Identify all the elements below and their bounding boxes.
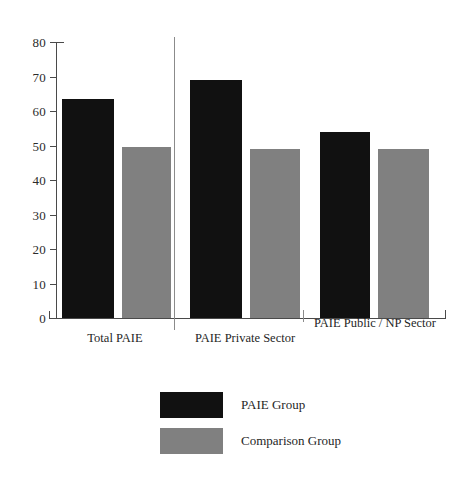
legend-item: PAIE Group [160, 392, 460, 428]
legend-label: Comparison Group [241, 433, 341, 449]
y-tick-label: 80 [18, 36, 46, 49]
bars-plot-area [57, 42, 445, 318]
y-tick-mark [50, 111, 57, 112]
legend-swatch [160, 428, 223, 454]
legend-label: PAIE Group [241, 397, 305, 413]
category-label: Total PAIE [55, 331, 175, 346]
category-label: PAIE Public / NP Sector [310, 316, 440, 331]
bar [122, 147, 171, 318]
bar [62, 99, 114, 318]
chart-legend: PAIE GroupComparison Group [160, 392, 460, 464]
y-tick-label: 50 [18, 140, 46, 153]
legend-item: Comparison Group [160, 428, 460, 464]
bar [190, 80, 242, 318]
y-tick-mark [50, 249, 57, 250]
category-label: PAIE Private Sector [180, 331, 310, 346]
y-tick-label: 40 [18, 174, 46, 187]
y-tick-mark [50, 77, 57, 78]
bar-chart-figure: 80706050403020100 Total PAIEPAIE Private… [0, 0, 469, 480]
x-axis-right-cap [445, 310, 446, 319]
y-tick-label: 20 [18, 243, 46, 256]
y-tick-mark [50, 284, 57, 285]
y-tick-label: 60 [18, 105, 46, 118]
bar [250, 149, 300, 318]
y-tick-label: 30 [18, 209, 46, 222]
legend-swatch [160, 392, 223, 418]
y-tick-mark [50, 215, 57, 216]
bar [378, 149, 429, 318]
bar [320, 132, 370, 318]
y-tick-label: 70 [18, 71, 46, 84]
y-tick-label: 10 [18, 278, 46, 291]
y-tick-mark [50, 42, 57, 43]
x-axis-left-foot [49, 318, 57, 319]
y-tick-label: 0 [18, 312, 46, 325]
y-tick-mark [50, 180, 57, 181]
y-tick-mark [50, 146, 57, 147]
